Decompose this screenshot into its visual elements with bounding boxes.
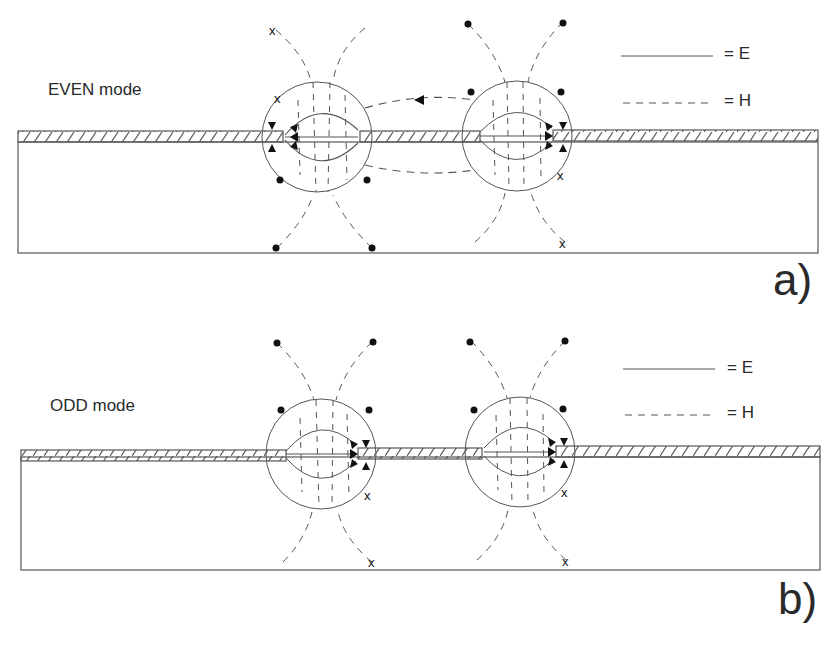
x-marker-icon: x — [274, 91, 281, 106]
dot-marker-icon — [558, 89, 565, 96]
dot-marker-icon — [274, 340, 281, 347]
mode-label-even: EVEN mode — [48, 80, 142, 100]
dot-marker-icon — [364, 177, 371, 184]
dot-marker-icon — [278, 407, 285, 414]
legend-b — [623, 369, 715, 415]
dot-marker-icon — [471, 407, 478, 414]
dot-marker-icon — [465, 21, 472, 28]
legend-h-label: = H — [724, 91, 751, 111]
mode-label-odd: ODD mode — [50, 396, 135, 416]
dot-marker-icon — [369, 245, 376, 252]
x-marker-icon: x — [364, 488, 371, 503]
dot-marker-icon — [277, 177, 284, 184]
x-marker-icon: x — [368, 555, 375, 570]
dot-marker-icon — [468, 89, 475, 96]
metallization-b — [21, 446, 820, 461]
x-marker-icon: x — [559, 236, 566, 251]
panel-a-even-mode: x x x x — [18, 20, 818, 254]
dot-marker-icon — [560, 20, 567, 27]
panel-b-odd-mode: x x x x — [21, 338, 820, 571]
legend-e-label: = E — [724, 44, 750, 64]
dot-marker-icon — [273, 245, 280, 252]
dot-marker-icon — [366, 407, 373, 414]
x-marker-icon: x — [562, 554, 569, 569]
panel-tag-b: b) — [778, 577, 817, 621]
dot-marker-icon — [560, 406, 567, 413]
x-marker-icon: x — [557, 168, 564, 183]
dot-marker-icon — [370, 339, 377, 346]
dot-marker-icon — [562, 338, 569, 345]
legend-h-label: = H — [727, 403, 754, 423]
dot-marker-icon — [467, 339, 474, 346]
legend-e-label: = E — [727, 358, 753, 378]
legend-a — [621, 56, 713, 103]
metallization-a — [18, 130, 818, 142]
x-marker-icon: x — [561, 485, 568, 500]
panel-tag-a: a) — [773, 258, 812, 302]
substrate-a — [18, 142, 818, 253]
x-marker-icon: x — [269, 23, 276, 38]
substrate-b — [21, 457, 820, 570]
